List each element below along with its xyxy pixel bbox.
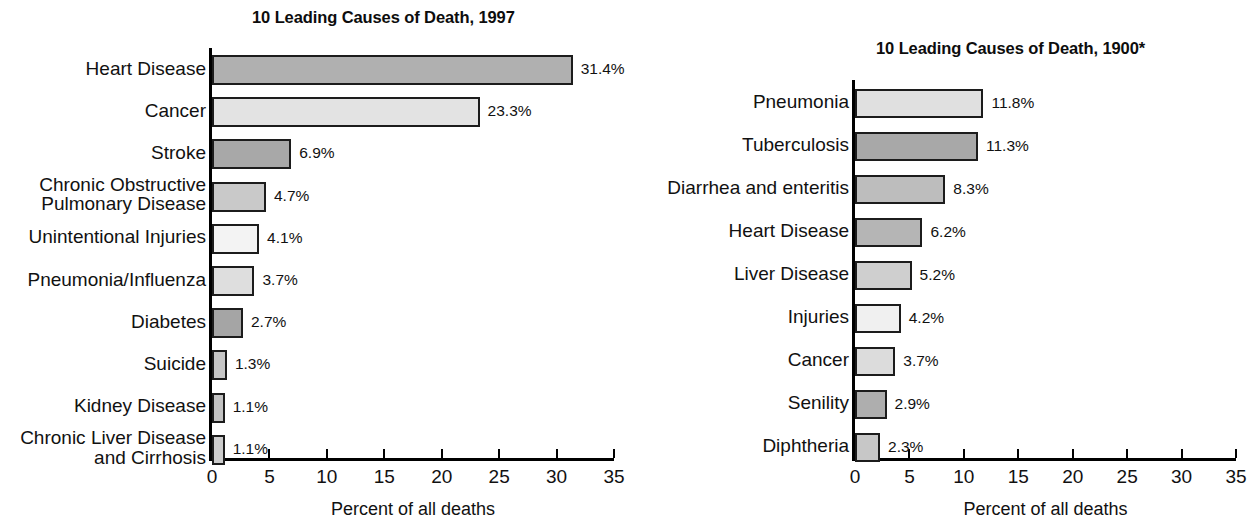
bar-1997 — [212, 350, 227, 380]
bar-1900 — [855, 218, 922, 247]
chart-title-1900: 10 Leading Causes of Death, 1900* — [876, 39, 1145, 58]
x-axis-tick-1997 — [556, 449, 558, 458]
x-axis-line-1997 — [209, 458, 614, 461]
x-axis-tick-label-1900: 15 — [1008, 466, 1029, 488]
bar-1997 — [212, 97, 480, 127]
category-label-1997: Chronic Liver Disease and Cirrhosis — [0, 428, 206, 468]
bar-1997 — [212, 308, 243, 338]
x-axis-tick-label-1900: 25 — [1117, 466, 1138, 488]
bar-value-label-1997: 1.1% — [233, 440, 268, 458]
x-axis-caption-1900: Percent of all deaths — [963, 499, 1127, 520]
bar-1997 — [212, 393, 225, 423]
bar-value-label-1997: 31.4% — [581, 60, 625, 78]
category-label-1900: Diarrhea and enteritis — [625, 178, 849, 198]
x-axis-tick-1997 — [441, 449, 443, 458]
bar-1997 — [212, 139, 291, 169]
bar-value-label-1997: 6.9% — [299, 144, 334, 162]
bar-1997 — [212, 182, 266, 212]
bar-1900 — [855, 132, 978, 161]
x-axis-tick-label-1900: 35 — [1225, 466, 1246, 488]
bar-1997 — [212, 55, 573, 85]
bar-value-label-1900: 6.2% — [930, 223, 965, 241]
category-label-1997: Suicide — [0, 354, 206, 374]
category-label-1997: Pneumonia/Influenza — [0, 270, 206, 290]
category-label-1997: Chronic Obstructive Pulmonary Disease — [0, 175, 206, 215]
x-axis-tick-label-1997: 15 — [374, 466, 395, 488]
bar-value-label-1900: 5.2% — [920, 266, 955, 284]
x-axis-tick-label-1900: 10 — [953, 466, 974, 488]
bar-value-label-1997: 1.1% — [233, 398, 268, 416]
x-axis-tick-label-1997: 10 — [316, 466, 337, 488]
x-axis-tick-label-1900: 5 — [904, 466, 915, 488]
x-axis-tick-1997 — [268, 449, 270, 458]
bar-1997 — [212, 224, 259, 254]
chart-panel-1997: 10 Leading Causes of Death, 1997 0510152… — [0, 0, 625, 526]
x-axis-tick-1900 — [1072, 449, 1074, 458]
category-label-1997: Diabetes — [0, 312, 206, 332]
bar-value-label-1900: 8.3% — [953, 180, 988, 198]
bar-value-label-1997: 1.3% — [235, 355, 270, 373]
x-axis-tick-1900 — [1017, 449, 1019, 458]
bar-value-label-1900: 3.7% — [903, 352, 938, 370]
bar-value-label-1900: 2.3% — [888, 438, 923, 456]
x-axis-tick-label-1900: 20 — [1062, 466, 1083, 488]
category-label-1997: Cancer — [0, 101, 206, 121]
x-axis-tick-1900 — [963, 449, 965, 458]
category-label-1900: Pneumonia — [625, 92, 849, 112]
bar-value-label-1900: 11.3% — [986, 137, 1029, 155]
x-axis-tick-label-1900: 0 — [850, 466, 861, 488]
plot-area-1900: 05101520253035Percent of all deaths11.8%… — [855, 80, 1236, 458]
bar-1997 — [212, 266, 254, 296]
bar-1900 — [855, 304, 901, 333]
plot-area-1997: 05101520253035Percent of all deaths31.4%… — [212, 48, 614, 458]
x-axis-tick-label-1997: 20 — [431, 466, 452, 488]
x-axis-tick-label-1997: 25 — [489, 466, 510, 488]
bar-1900 — [855, 261, 912, 290]
x-axis-tick-label-1997: 35 — [603, 466, 624, 488]
bar-value-label-1900: 11.8% — [991, 94, 1034, 112]
category-label-1997: Kidney Disease — [0, 396, 206, 416]
bar-value-label-1997: 4.1% — [267, 229, 302, 247]
x-axis-tick-1997 — [383, 449, 385, 458]
x-axis-tick-1997 — [613, 449, 615, 458]
chart-title-1997: 10 Leading Causes of Death, 1997 — [252, 8, 515, 27]
category-label-1997: Heart Disease — [0, 59, 206, 79]
x-axis-tick-1900 — [1235, 449, 1237, 458]
bar-value-label-1997: 3.7% — [262, 271, 297, 289]
category-label-1900: Cancer — [625, 350, 849, 370]
x-axis-tick-1900 — [1181, 449, 1183, 458]
bar-value-label-1900: 2.9% — [895, 395, 930, 413]
bar-value-label-1997: 4.7% — [274, 187, 309, 205]
x-axis-tick-label-1997: 0 — [207, 466, 218, 488]
bar-value-label-1997: 2.7% — [251, 313, 286, 331]
category-label-1900: Tuberculosis — [625, 135, 849, 155]
x-axis-tick-1997 — [326, 449, 328, 458]
bar-1900 — [855, 390, 887, 419]
category-label-1900: Senility — [625, 393, 849, 413]
category-label-1900: Liver Disease — [625, 264, 849, 284]
x-axis-caption-1997: Percent of all deaths — [331, 499, 495, 520]
chart-panel-1900: 10 Leading Causes of Death, 1900* 051015… — [625, 0, 1251, 526]
category-label-1900: Heart Disease — [625, 221, 849, 241]
bar-1900 — [855, 347, 895, 376]
bar-1900 — [855, 433, 880, 462]
bar-1900 — [855, 175, 945, 204]
category-label-1900: Injuries — [625, 307, 849, 327]
bar-value-label-1900: 4.2% — [909, 309, 944, 327]
x-axis-line-1900 — [852, 458, 1236, 461]
bar-1997 — [212, 435, 225, 465]
bar-1900 — [855, 89, 983, 118]
x-axis-tick-label-1997: 5 — [264, 466, 275, 488]
x-axis-tick-label-1900: 30 — [1171, 466, 1192, 488]
x-axis-tick-1997 — [498, 449, 500, 458]
category-label-1900: Diphtheria — [625, 436, 849, 456]
category-label-1997: Stroke — [0, 143, 206, 163]
category-label-1997: Unintentional Injuries — [0, 227, 206, 247]
x-axis-tick-label-1997: 30 — [546, 466, 567, 488]
x-axis-tick-1900 — [1126, 449, 1128, 458]
bar-value-label-1997: 23.3% — [488, 102, 532, 120]
